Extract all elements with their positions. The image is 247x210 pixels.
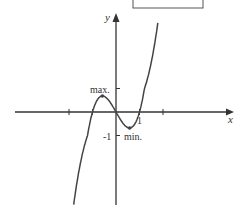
max-point [101,94,105,98]
y-axis-label: y [104,11,110,23]
y-axis-arrow-icon [113,13,120,22]
min-point [128,126,132,130]
max-label: max. [90,84,110,95]
function-graph: y x 1 -1 max. min. [0,0,247,210]
x-axis-label: x [227,113,233,125]
y-tick-label-neg1: -1 [103,131,111,142]
min-label: min. [124,131,142,142]
title-box [133,0,203,8]
